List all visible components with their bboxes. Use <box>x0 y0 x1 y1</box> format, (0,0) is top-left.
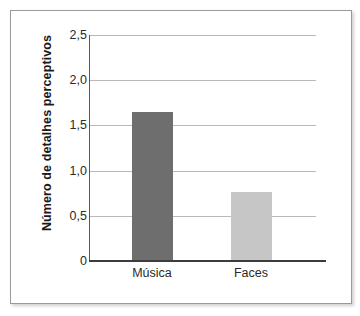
bars-layer <box>89 35 316 261</box>
bar-musica[interactable] <box>132 112 173 261</box>
y-tick-label-0: 0 <box>49 255 87 268</box>
y-tick-label-3: 1,5 <box>49 119 87 132</box>
y-tick-label-1: 0,5 <box>49 210 87 223</box>
y-axis-tick-labels: 0 0,5 1,0 1,5 2,0 2,5 <box>49 35 87 261</box>
figure-frame: Número de detalhes perceptivos 0 0,5 1,0… <box>10 10 352 304</box>
plot-area <box>89 35 316 261</box>
y-tick-label-2: 1,0 <box>49 164 87 177</box>
y-tick-label-5: 2,5 <box>49 29 87 42</box>
x-category-label-musica: Música <box>107 266 197 280</box>
x-axis-category-labels: Música Faces <box>89 266 329 288</box>
bar-faces[interactable] <box>231 192 272 261</box>
x-axis-baseline <box>89 260 326 262</box>
y-tick-label-4: 2,0 <box>49 74 87 87</box>
x-category-label-faces: Faces <box>206 266 296 280</box>
